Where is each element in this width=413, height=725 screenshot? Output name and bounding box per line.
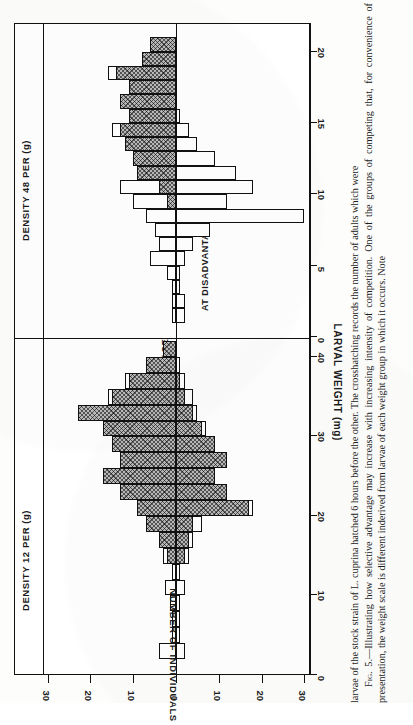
y-tick — [219, 675, 220, 683]
bar-open — [176, 357, 180, 373]
y-tick — [262, 675, 263, 683]
y-tick — [304, 675, 305, 683]
figure-rotated-container: DENSITY 12 PER (g) DENSITY 48 PER (g) 6 … — [0, 0, 350, 703]
bar-hatched — [120, 123, 176, 137]
bar-open — [176, 223, 210, 237]
bar-open — [176, 266, 180, 280]
bar-hatched — [129, 80, 176, 94]
bar-hatched — [120, 94, 176, 108]
caption-body-line: Fig. 5.—Illustrating how selective advan… — [362, 3, 389, 703]
x-tick-label: 40 — [316, 352, 327, 363]
bar-open — [176, 251, 185, 265]
x-tick-label: 20 — [316, 47, 327, 58]
bar-open — [176, 308, 185, 322]
bar-hatched — [116, 66, 176, 80]
bar-open — [176, 280, 180, 294]
bar-hatched — [176, 452, 227, 468]
bar-hatched — [176, 516, 193, 532]
x-tick-label: 15 — [316, 118, 327, 129]
bar-open — [159, 237, 176, 251]
x-tick-label: 0 — [316, 676, 327, 681]
bar-hatched — [129, 109, 176, 123]
bar-hatched — [146, 516, 176, 532]
bar-open — [155, 223, 176, 237]
bar-open — [150, 251, 176, 265]
figure: DENSITY 12 PER (g) DENSITY 48 PER (g) 6 … — [0, 0, 350, 703]
bar-hatched — [120, 452, 176, 468]
bar-hatched — [176, 500, 249, 516]
caption-runon-line: larvae of the stock strain of L. cuprina… — [348, 3, 362, 703]
panel-title-density12: DENSITY 12 PER (g) — [20, 510, 31, 611]
bar-hatched — [176, 436, 215, 452]
bar-hatched — [125, 137, 176, 151]
bar-hatched — [137, 166, 176, 180]
x-tick-label: 5 — [316, 266, 327, 271]
bar-hatched — [176, 468, 215, 484]
bar-hatched — [176, 421, 202, 437]
y-tick — [133, 675, 134, 683]
figure-caption: larvae of the stock strain of L. cuprina… — [348, 3, 389, 703]
bar-hatched — [78, 405, 176, 421]
y-tick-label: 20 — [255, 690, 266, 701]
caption-fig-number: Fig. 5. — [363, 659, 374, 687]
bar-open — [176, 194, 227, 208]
bar-hatched — [167, 548, 176, 564]
bar-hatched — [159, 180, 176, 194]
x-tick-label: 10 — [316, 591, 327, 602]
y-tick-label: 10 — [212, 690, 223, 701]
bar-hatched — [103, 468, 176, 484]
x-tick — [310, 265, 317, 266]
bar-hatched — [142, 52, 176, 66]
bar-open — [167, 266, 176, 280]
y-axis-label: NUMBER OF INDIVIDUALS — [168, 565, 179, 725]
bar-hatched — [120, 484, 176, 500]
bar-open — [176, 109, 180, 123]
bar-hatched — [176, 373, 180, 389]
bar-open — [176, 209, 304, 223]
bar-open — [176, 151, 215, 165]
caption-body-text: —Illustrating how selective advantage ma… — [363, 3, 388, 703]
panel-header-rule — [43, 23, 44, 675]
y-tick — [90, 675, 91, 683]
bar-hatched — [176, 389, 185, 405]
bar-hatched — [163, 341, 176, 357]
y-tick-label: 30 — [41, 690, 52, 701]
y-tick-label: 20 — [83, 690, 94, 701]
bar-open — [176, 237, 193, 251]
bar-open — [146, 209, 176, 223]
y-axis-line — [14, 674, 310, 675]
bar-hatched — [146, 357, 176, 373]
bar-hatched — [176, 405, 193, 421]
bar-hatched — [133, 151, 176, 165]
x-tick-label: 30 — [316, 432, 327, 443]
y-tick-label: 30 — [297, 690, 308, 701]
y-tick — [48, 675, 49, 683]
y-tick-label: 10 — [126, 690, 137, 701]
bar-hatched — [137, 500, 176, 516]
bar-hatched — [167, 194, 176, 208]
bar-hatched — [159, 532, 176, 548]
bar-hatched — [150, 37, 176, 51]
x-axis-label: LARVAL WEIGHT (mg) — [332, 324, 343, 441]
panel-title-density48: DENSITY 48 PER (g) — [20, 140, 31, 241]
bar-hatched — [129, 373, 176, 389]
bar-open — [176, 180, 253, 194]
x-tick-label: 0 — [316, 338, 327, 343]
x-tick-label: 10 — [316, 190, 327, 201]
bar-open — [176, 166, 236, 180]
bar-open — [176, 137, 197, 151]
bar-hatched — [176, 548, 185, 564]
bar-hatched — [176, 484, 227, 500]
bar-hatched — [112, 436, 176, 452]
caption-rotated-container: larvae of the stock strain of L. cuprina… — [348, 0, 413, 703]
bar-hatched — [176, 532, 189, 548]
bar-open — [176, 294, 185, 308]
bar-hatched — [103, 421, 176, 437]
bar-open — [176, 123, 189, 137]
x-tick-label: 20 — [316, 511, 327, 522]
x-axis-line — [310, 23, 311, 675]
bar-hatched — [112, 389, 176, 405]
